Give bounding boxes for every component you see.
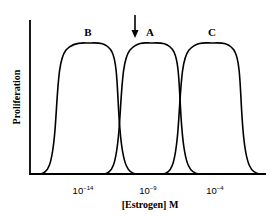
x-tick-label: 10−4 [206,185,224,196]
down-arrow-icon [132,15,139,38]
x-tick-label: 10−14 [73,185,94,196]
y-axis-title: Proliferation [11,69,22,124]
curve-a [103,43,200,174]
x-axis-title: [Estrogen] M [122,199,179,210]
chart: B A C 10−14 10−9 10−4 [Estrogen] M Proli… [0,0,276,217]
x-tick-label: 10−9 [139,185,157,196]
curve-c-label: C [208,26,216,38]
curve-b [39,43,137,174]
curve-a-label: A [146,26,154,38]
curve-b-label: B [84,26,92,38]
